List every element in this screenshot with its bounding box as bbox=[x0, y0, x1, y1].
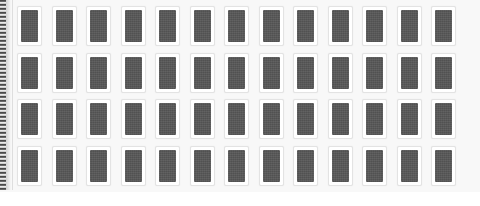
card-thumbnail-image bbox=[21, 150, 38, 182]
card-thumbnail-image bbox=[263, 103, 280, 135]
card-thumbnail[interactable] bbox=[328, 146, 353, 186]
card-thumbnail-image bbox=[332, 57, 349, 89]
card-thumbnail-image bbox=[435, 150, 452, 182]
card-thumbnail[interactable] bbox=[293, 146, 318, 186]
card-thumbnail[interactable] bbox=[259, 146, 284, 186]
card-thumbnail-image bbox=[125, 57, 142, 89]
row-4 bbox=[17, 146, 469, 193]
card-thumbnail[interactable] bbox=[86, 6, 111, 46]
row-2 bbox=[17, 53, 469, 100]
card-thumbnail-image bbox=[228, 103, 245, 135]
card-thumbnail[interactable] bbox=[431, 146, 456, 186]
card-thumbnail-image bbox=[194, 10, 211, 42]
card-thumbnail-image bbox=[228, 57, 245, 89]
card-thumbnail[interactable] bbox=[17, 6, 42, 46]
card-thumbnail-image bbox=[194, 150, 211, 182]
card-thumbnail[interactable] bbox=[397, 146, 422, 186]
card-thumbnail[interactable] bbox=[293, 99, 318, 139]
card-thumbnail-image bbox=[228, 150, 245, 182]
card-thumbnail-image bbox=[297, 150, 314, 182]
card-thumbnail-image bbox=[159, 57, 176, 89]
card-thumbnail-image bbox=[332, 103, 349, 135]
card-thumbnail-image bbox=[401, 150, 418, 182]
card-thumbnail[interactable] bbox=[121, 6, 146, 46]
card-thumbnail-image bbox=[263, 10, 280, 42]
card-thumbnail-image bbox=[21, 103, 38, 135]
card-thumbnail-image bbox=[159, 150, 176, 182]
card-thumbnail-image bbox=[332, 10, 349, 42]
card-thumbnail[interactable] bbox=[17, 53, 42, 93]
card-thumbnail[interactable] bbox=[52, 6, 77, 46]
page-footer-blank-area bbox=[0, 192, 480, 206]
card-thumbnail[interactable] bbox=[190, 146, 215, 186]
card-thumbnail-image bbox=[21, 57, 38, 89]
card-thumbnail[interactable] bbox=[259, 53, 284, 93]
card-thumbnail-image bbox=[332, 150, 349, 182]
card-thumbnail[interactable] bbox=[155, 53, 180, 93]
card-thumbnail[interactable] bbox=[328, 6, 353, 46]
card-thumbnail-image bbox=[435, 57, 452, 89]
card-thumbnail[interactable] bbox=[259, 6, 284, 46]
card-thumbnail[interactable] bbox=[52, 99, 77, 139]
card-thumbnail-image bbox=[435, 10, 452, 42]
card-thumbnail[interactable] bbox=[155, 99, 180, 139]
card-thumbnail[interactable] bbox=[362, 53, 387, 93]
card-thumbnail-image bbox=[125, 10, 142, 42]
card-thumbnail[interactable] bbox=[362, 6, 387, 46]
card-thumbnail-image bbox=[159, 10, 176, 42]
card-grid bbox=[17, 6, 469, 192]
card-thumbnail[interactable] bbox=[224, 53, 249, 93]
card-thumbnail[interactable] bbox=[121, 53, 146, 93]
card-thumbnail[interactable] bbox=[86, 53, 111, 93]
binding-shadow bbox=[6, 0, 11, 190]
card-thumbnail[interactable] bbox=[190, 99, 215, 139]
card-thumbnail[interactable] bbox=[224, 6, 249, 46]
card-thumbnail[interactable] bbox=[397, 53, 422, 93]
card-thumbnail-image bbox=[90, 57, 107, 89]
card-thumbnail-image bbox=[56, 10, 73, 42]
card-thumbnail[interactable] bbox=[224, 146, 249, 186]
card-thumbnail[interactable] bbox=[259, 99, 284, 139]
card-thumbnail-image bbox=[263, 150, 280, 182]
card-thumbnail[interactable] bbox=[362, 146, 387, 186]
card-thumbnail-image bbox=[366, 57, 383, 89]
card-thumbnail-image bbox=[56, 103, 73, 135]
card-thumbnail[interactable] bbox=[86, 146, 111, 186]
card-thumbnail[interactable] bbox=[155, 146, 180, 186]
card-thumbnail[interactable] bbox=[190, 6, 215, 46]
card-thumbnail[interactable] bbox=[397, 99, 422, 139]
card-thumbnail[interactable] bbox=[397, 6, 422, 46]
card-thumbnail[interactable] bbox=[17, 146, 42, 186]
card-thumbnail[interactable] bbox=[17, 99, 42, 139]
card-thumbnail-image bbox=[228, 10, 245, 42]
card-thumbnail[interactable] bbox=[86, 99, 111, 139]
scanned-page bbox=[0, 0, 480, 206]
card-thumbnail-image bbox=[56, 57, 73, 89]
card-thumbnail-image bbox=[366, 150, 383, 182]
card-thumbnail[interactable] bbox=[431, 6, 456, 46]
card-thumbnail-image bbox=[194, 57, 211, 89]
card-thumbnail[interactable] bbox=[293, 6, 318, 46]
card-thumbnail[interactable] bbox=[431, 99, 456, 139]
card-thumbnail-image bbox=[401, 103, 418, 135]
card-thumbnail[interactable] bbox=[121, 99, 146, 139]
card-thumbnail[interactable] bbox=[328, 99, 353, 139]
card-thumbnail-image bbox=[125, 150, 142, 182]
card-thumbnail-image bbox=[263, 57, 280, 89]
card-thumbnail[interactable] bbox=[190, 53, 215, 93]
card-thumbnail[interactable] bbox=[121, 146, 146, 186]
card-thumbnail[interactable] bbox=[328, 53, 353, 93]
card-thumbnail-image bbox=[159, 103, 176, 135]
card-thumbnail[interactable] bbox=[362, 99, 387, 139]
card-thumbnail-image bbox=[90, 10, 107, 42]
card-thumbnail[interactable] bbox=[224, 99, 249, 139]
row-1 bbox=[17, 6, 469, 53]
card-thumbnail[interactable] bbox=[431, 53, 456, 93]
card-thumbnail[interactable] bbox=[52, 146, 77, 186]
row-3 bbox=[17, 99, 469, 146]
card-thumbnail-image bbox=[297, 103, 314, 135]
card-thumbnail[interactable] bbox=[52, 53, 77, 93]
card-thumbnail[interactable] bbox=[293, 53, 318, 93]
card-thumbnail-image bbox=[401, 57, 418, 89]
card-thumbnail[interactable] bbox=[155, 6, 180, 46]
